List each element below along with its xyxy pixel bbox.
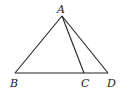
segment-ac [62,16,84,73]
segment-ab [15,16,62,73]
label-a: A [56,3,65,16]
segment-ad [62,16,108,73]
label-c: C [81,77,90,90]
triangle-diagram: A B C D [0,0,126,97]
label-b: B [9,77,18,90]
label-d: D [106,77,116,90]
